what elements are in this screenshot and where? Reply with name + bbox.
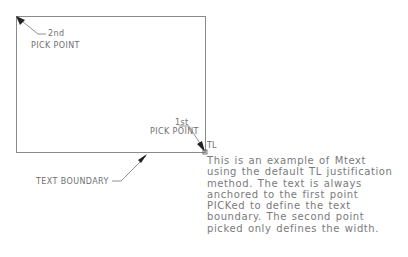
second-pick-arrow-icon (16, 16, 25, 25)
mtext-line: This is an example of Mtext (207, 155, 393, 166)
boundary-arrow-icon (138, 154, 147, 163)
text-boundary-label: TEXT BOUNDARY (36, 177, 109, 186)
mtext-line: using the default TL justification (207, 166, 393, 177)
mtext-line: PICKed to define the text (207, 200, 393, 211)
mtext-line: boundary. The second point (207, 211, 393, 222)
mtext-line: anchored to the first point (207, 189, 393, 200)
first-pick-label-line2: PICK POINT (150, 127, 199, 136)
first-pick-label-line1: 1st (175, 118, 189, 127)
second-pick-leader (16, 16, 46, 34)
mtext-line: method. The text is always (207, 178, 393, 189)
justification-label: TL (207, 141, 216, 150)
mtext-line: picked only defines the width. (207, 223, 393, 234)
text-boundary-leader (112, 154, 147, 181)
second-pick-label-line1: 2nd (48, 29, 64, 38)
mtext-paragraph: This is an example of Mtext using the de… (207, 155, 393, 234)
second-pick-label-line2: PICK POINT (31, 41, 80, 50)
